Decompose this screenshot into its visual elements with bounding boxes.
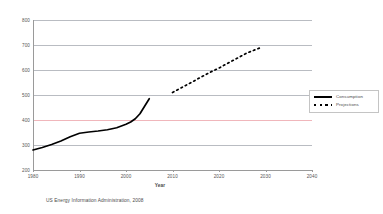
x-tick-label-2010: 2010	[160, 174, 186, 179]
gridline-300	[33, 145, 312, 146]
y-axis-line	[33, 20, 34, 170]
y-tick-label-500: 500	[8, 93, 30, 98]
x-tick-label-2030: 2030	[253, 174, 279, 179]
legend-item-consumption[interactable]: Consumption	[312, 93, 376, 101]
legend-solid-line-icon	[312, 93, 334, 101]
legend-label-consumption: Consumption	[334, 94, 363, 100]
gridline-400	[33, 120, 312, 121]
y-tick-label-200: 200	[8, 168, 30, 173]
legend-dashed-line-icon	[312, 101, 334, 109]
x-tick-mark-2020	[219, 170, 220, 172]
y-tick-label-400: 400	[8, 118, 30, 123]
gridline-600	[33, 70, 312, 71]
x-tick-mark-2040	[312, 170, 313, 172]
x-axis-title: Year	[120, 183, 200, 189]
legend-item-projections[interactable]: Projections	[312, 101, 376, 109]
x-tick-label-1980: 1980	[20, 174, 46, 179]
source-caption: US Energy Information Administration, 20…	[46, 198, 144, 204]
legend-label-projections: Projections	[334, 102, 359, 108]
x-tick-mark-2000	[126, 170, 127, 172]
chart-figure: 200300400500600700800 198019902000201020…	[0, 0, 383, 214]
x-tick-label-1990: 1990	[67, 174, 93, 179]
x-tick-mark-1990	[80, 170, 81, 172]
y-tick-label-300: 300	[8, 143, 30, 148]
x-tick-label-2000: 2000	[113, 174, 139, 179]
y-tick-label-800: 800	[8, 18, 30, 23]
x-tick-mark-1980	[33, 170, 34, 172]
gridline-800	[33, 20, 312, 21]
x-tick-mark-2030	[266, 170, 267, 172]
y-tick-label-700: 700	[8, 43, 30, 48]
x-tick-label-2020: 2020	[206, 174, 232, 179]
y-tick-label-600: 600	[8, 68, 30, 73]
gridline-500	[33, 95, 312, 96]
series-consumption-line	[33, 99, 149, 150]
x-tick-mark-2010	[173, 170, 174, 172]
chart-legend[interactable]: Consumption Projections	[309, 90, 379, 113]
x-tick-label-2040: 2040	[299, 174, 325, 179]
gridline-700	[33, 45, 312, 46]
